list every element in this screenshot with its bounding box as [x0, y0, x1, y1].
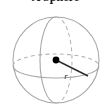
- sphere-diagram: r: [0, 0, 111, 112]
- sphere-figure: A Sphere r: [0, 0, 111, 112]
- sphere-center-dot: [53, 57, 60, 64]
- equator-front-arc: [13, 66, 99, 78]
- radius-label: r: [64, 71, 68, 81]
